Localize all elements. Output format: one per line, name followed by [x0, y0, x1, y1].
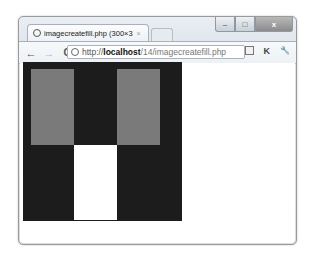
page-content: [20, 63, 295, 243]
page-icon[interactable]: [245, 46, 254, 55]
browser-window: – □ x imagecreatefill.php (300×3 × ← → C…: [18, 16, 297, 245]
globe-icon: [71, 48, 79, 56]
toolbar-icons: K 🔧: [245, 46, 291, 56]
tab-close-icon[interactable]: ×: [137, 30, 141, 37]
close-button[interactable]: x: [255, 17, 293, 32]
right-gray-rect: [117, 69, 160, 145]
white-rect: [74, 145, 117, 220]
url-host: localhost: [103, 47, 140, 57]
forward-button[interactable]: →: [43, 47, 55, 59]
window-controls: – □ x: [215, 17, 293, 32]
url-path: /14/imagecreatefill.php: [141, 47, 227, 57]
url-scheme: http://: [82, 47, 103, 57]
globe-icon: [33, 29, 41, 37]
new-tab-button[interactable]: [151, 28, 173, 41]
left-gray-rect: [31, 69, 74, 145]
tab-imagecreatefill[interactable]: imagecreatefill.php (300×3 ×: [27, 24, 149, 41]
minimize-button[interactable]: –: [215, 17, 235, 32]
address-bar[interactable]: http://localhost/14/imagecreatefill.php: [67, 45, 245, 59]
k-extension-icon[interactable]: K: [264, 46, 271, 56]
maximize-button[interactable]: □: [235, 17, 255, 32]
toolbar: ← → C http://localhost/14/imagecreatefil…: [19, 41, 296, 64]
tab-title: imagecreatefill.php (300×3: [44, 29, 133, 38]
generated-image: [23, 62, 182, 221]
wrench-icon[interactable]: 🔧: [280, 46, 290, 56]
back-button[interactable]: ←: [25, 47, 37, 59]
